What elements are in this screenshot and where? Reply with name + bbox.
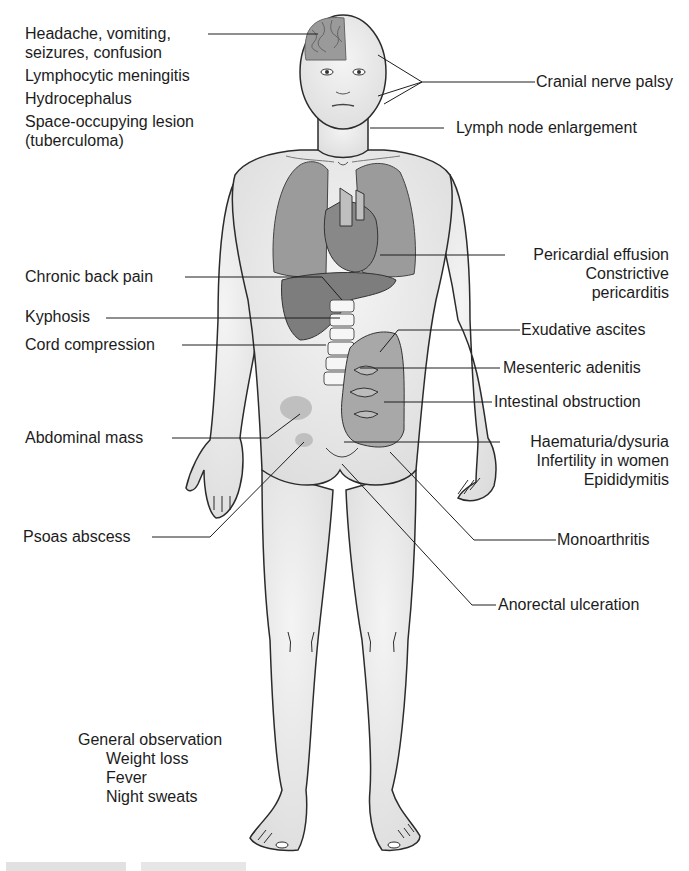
- label-line: Constrictive: [533, 264, 669, 283]
- label-haematuria: Haematuria/dysuria Infertility in women …: [530, 432, 669, 489]
- label-line: Haematuria/dysuria: [530, 432, 669, 451]
- label-line: Infertility in women: [530, 451, 669, 470]
- legs: [250, 470, 420, 851]
- label-psoas-abscess: Psoas abscess: [23, 527, 131, 546]
- label-line: (tuberculoma): [25, 131, 194, 150]
- label-cranial-nerve-palsy: Cranial nerve palsy: [536, 72, 673, 91]
- label-line: Space-occupying lesion: [25, 112, 194, 131]
- label-line: seizures, confusion: [25, 43, 171, 62]
- label-lymph-node-enlargement: Lymph node enlargement: [456, 118, 637, 137]
- figure-caption-cropped: [6, 862, 306, 871]
- head: [300, 15, 386, 129]
- label-line: Pericardial effusion: [533, 245, 669, 264]
- general-observation-title: General observation: [78, 730, 222, 749]
- label-monoarthritis: Monoarthritis: [557, 530, 649, 549]
- label-headache: Headache, vomiting, seizures, confusion: [25, 24, 171, 62]
- label-line: Headache, vomiting,: [25, 24, 171, 43]
- label-pericardial: Pericardial effusion Constrictive perica…: [533, 245, 669, 302]
- general-observation-block: General observation Weight loss Fever Ni…: [78, 730, 222, 806]
- label-kyphosis: Kyphosis: [25, 307, 90, 326]
- label-chronic-back-pain: Chronic back pain: [25, 267, 153, 286]
- tb-body-diagram: Headache, vomiting, seizures, confusion …: [0, 0, 689, 871]
- general-item-fever: Fever: [78, 768, 222, 787]
- label-mesenteric-adenitis: Mesenteric adenitis: [503, 358, 641, 377]
- general-item-night-sweats: Night sweats: [78, 787, 222, 806]
- label-abdominal-mass: Abdominal mass: [25, 428, 143, 447]
- label-exudative-ascites: Exudative ascites: [521, 320, 646, 339]
- label-line: Epididymitis: [530, 470, 669, 489]
- label-space-occupying-lesion: Space-occupying lesion (tuberculoma): [25, 112, 194, 150]
- label-hydrocephalus: Hydrocephalus: [25, 89, 132, 108]
- label-lymphocytic-meningitis: Lymphocytic meningitis: [25, 66, 190, 85]
- general-item-weight-loss: Weight loss: [78, 749, 222, 768]
- label-intestinal-obstruction: Intestinal obstruction: [494, 392, 641, 411]
- label-line: pericarditis: [533, 283, 669, 302]
- intestines: [342, 332, 405, 447]
- label-cord-compression: Cord compression: [25, 335, 155, 354]
- label-anorectal-ulceration: Anorectal ulceration: [498, 595, 639, 614]
